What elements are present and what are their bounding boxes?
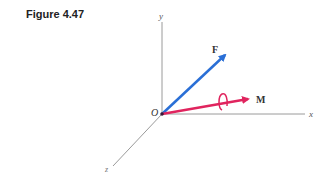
z-axis-label: z [104,165,109,174]
moment-label: M [256,94,266,105]
coordinate-diagram: y x z O F M [0,0,334,181]
force-label: F [212,44,218,55]
z-axis [113,114,162,166]
x-axis-label: x [308,109,313,119]
origin-label: O [151,107,158,118]
y-axis-label: y [158,11,163,21]
origin-point [160,112,164,116]
